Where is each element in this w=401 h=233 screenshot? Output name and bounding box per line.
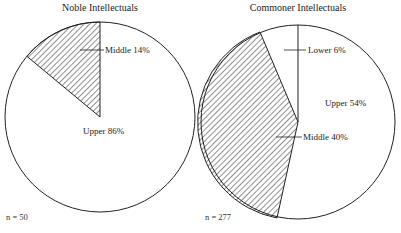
noble-title: Noble Intellectuals xyxy=(62,2,138,13)
pie-charts: Noble Intellectuals Middle 14% Upper 86%… xyxy=(0,0,401,233)
noble-upper-label: Upper 86% xyxy=(83,126,125,136)
noble-pie: Noble Intellectuals Middle 14% Upper 86%… xyxy=(5,2,195,222)
noble-middle-label: Middle 14% xyxy=(105,45,150,55)
noble-n-label: n = 50 xyxy=(6,212,28,222)
commoner-middle-label: Middle 40% xyxy=(303,132,348,142)
commoner-lower-label: Lower 6% xyxy=(308,45,346,55)
commoner-upper-label: Upper 54% xyxy=(325,98,367,108)
commoner-pie: Commoner Intellectuals Lower 6% Middle 4… xyxy=(198,2,395,222)
commoner-n-label: n = 277 xyxy=(205,212,231,222)
commoner-title: Commoner Intellectuals xyxy=(250,2,346,13)
